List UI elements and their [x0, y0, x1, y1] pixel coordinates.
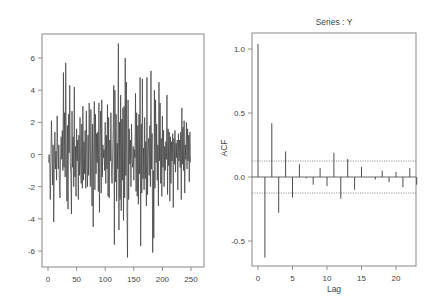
y-axis: -0.50.00.51.0	[231, 45, 252, 246]
y-axis: -6-4-20246	[28, 54, 42, 256]
y-tick-label: -2	[28, 183, 36, 192]
acf-spikes	[258, 44, 417, 258]
y-tick-label: -0.5	[231, 237, 245, 246]
y-tick-label: 0.0	[234, 173, 246, 182]
figure-canvas: -6-4-20246 050100150200250 Series : Y -0…	[0, 0, 438, 307]
x-tick-label: 10	[323, 274, 332, 283]
x-tick-label: 250	[184, 275, 198, 284]
y-tick-label: 4	[31, 86, 36, 95]
time-series-line	[49, 44, 191, 258]
acf-plot: Series : Y -0.50.00.51.0 05101520 Lag AC…	[219, 17, 417, 294]
y-tick-label: 2	[31, 118, 36, 127]
y-axis-label: ACF	[219, 140, 229, 157]
x-tick-label: 0	[256, 274, 261, 283]
y-tick-label: 0	[31, 151, 36, 160]
x-tick-label: 15	[357, 274, 366, 283]
plot-title: Series : Y	[316, 17, 353, 27]
time-series-plot: -6-4-20246 050100150200250	[28, 34, 204, 284]
x-tick-label: 150	[127, 275, 141, 284]
x-tick-label: 20	[392, 274, 401, 283]
y-tick-label: -4	[28, 215, 36, 224]
x-axis-label: Lag	[327, 284, 341, 294]
figure: -6-4-20246 050100150200250 Series : Y -0…	[0, 0, 438, 307]
x-tick-label: 0	[46, 275, 51, 284]
y-tick-label: 0.5	[234, 109, 246, 118]
x-axis: 05101520	[256, 266, 401, 283]
y-tick-label: 1.0	[234, 45, 246, 54]
y-tick-label: -6	[28, 247, 36, 256]
x-tick-label: 100	[99, 275, 113, 284]
plot-frame	[252, 33, 416, 266]
x-tick-label: 200	[156, 275, 170, 284]
x-tick-label: 50	[72, 275, 81, 284]
y-tick-label: 6	[31, 54, 36, 63]
x-axis: 050100150200250	[46, 267, 198, 284]
x-tick-label: 5	[290, 274, 295, 283]
